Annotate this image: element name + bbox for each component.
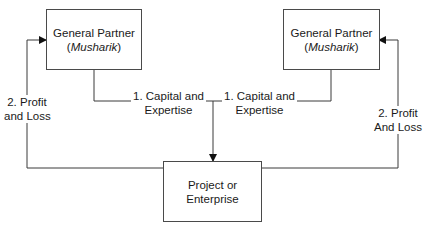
right-capital-label: 1. Capital and Expertise xyxy=(222,89,297,117)
left-partner-title: General Partner xyxy=(53,26,135,40)
project-line2: Enterprise xyxy=(186,192,238,206)
left-profit-loss-label: 2. Profit and Loss xyxy=(4,95,50,123)
project-enterprise-box: Project or Enterprise xyxy=(163,161,262,222)
left-partner-subtitle: (Musharik) xyxy=(67,40,121,54)
right-profit-loss-label: 2. Profit And Loss xyxy=(374,106,422,134)
right-partner-title: General Partner xyxy=(291,26,373,40)
left-capital-label: 1. Capital and Expertise xyxy=(131,89,206,117)
right-partner-subtitle: (Musharik) xyxy=(304,40,358,54)
left-general-partner-box: General Partner (Musharik) xyxy=(46,9,142,70)
project-line1: Project or xyxy=(188,178,237,192)
right-general-partner-box: General Partner (Musharik) xyxy=(283,9,380,70)
